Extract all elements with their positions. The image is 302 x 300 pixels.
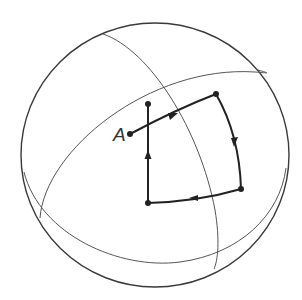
equator-curve-front <box>24 168 286 263</box>
sphere-diagram <box>0 0 302 300</box>
meridian-curve <box>103 34 218 269</box>
vertex-top-left <box>145 101 151 107</box>
edge-bottom <box>148 189 241 203</box>
equator-curve-back-end <box>255 70 267 73</box>
diagram-canvas: A <box>0 0 302 300</box>
arrow-down-icon <box>231 137 238 147</box>
point-a-dot <box>127 131 133 137</box>
transport-loop <box>130 94 241 203</box>
vertex-top-right <box>213 91 219 97</box>
arrow-right-icon <box>168 113 178 120</box>
arrow-up-icon <box>145 150 152 159</box>
upper-arc <box>55 72 256 222</box>
point-a-label: A <box>113 125 126 144</box>
edge-right <box>216 94 241 189</box>
sphere-outline <box>21 23 289 287</box>
vertex-bottom-left <box>145 200 151 206</box>
vertex-bottom-right <box>238 186 244 192</box>
